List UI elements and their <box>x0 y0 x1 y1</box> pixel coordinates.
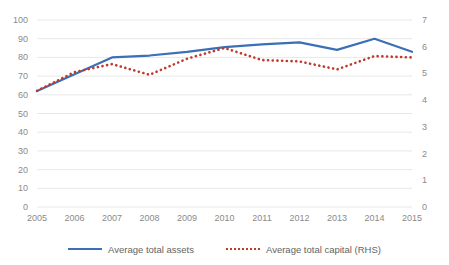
chart-container: 1009080706050403020100 76543210 20052006… <box>0 0 449 265</box>
series-line-average-total-capital <box>37 48 412 91</box>
plot-area: 1009080706050403020100 76543210 20052006… <box>0 0 449 232</box>
legend-label-average-total-capital: Average total capital (RHS) <box>266 244 381 255</box>
y-axis-right-tick-label: 2 <box>422 149 442 159</box>
x-axis-tick-label: 2005 <box>20 213 54 223</box>
x-axis-tick-label: 2009 <box>170 213 204 223</box>
series-line-average-total-assets <box>37 39 412 91</box>
y-axis-right-tick-label: 4 <box>422 95 442 105</box>
y-axis-left-tick-label: 60 <box>2 90 28 100</box>
y-axis-left-tick-label: 30 <box>2 146 28 156</box>
y-axis-right-tick-label: 1 <box>422 175 442 185</box>
x-axis-tick-label: 2015 <box>395 213 429 223</box>
x-axis-tick-label: 2014 <box>358 213 392 223</box>
y-axis-right-tick-label: 6 <box>422 42 442 52</box>
y-axis-right-tick-label: 0 <box>422 202 442 212</box>
legend-item-average-total-capital[interactable]: Average total capital (RHS) <box>226 244 381 255</box>
y-axis-left-tick-label: 80 <box>2 52 28 62</box>
x-axis-tick-label: 2007 <box>95 213 129 223</box>
x-axis-tick-label: 2012 <box>283 213 317 223</box>
y-axis-left-tick-label: 40 <box>2 127 28 137</box>
chart-canvas <box>0 0 449 232</box>
y-axis-right-tick-label: 7 <box>422 15 442 25</box>
legend-swatch-dotted-line-icon <box>226 248 260 250</box>
y-axis-left-tick-label: 20 <box>2 165 28 175</box>
x-axis-tick-label: 2013 <box>320 213 354 223</box>
legend-item-average-total-assets[interactable]: Average total assets <box>68 244 194 255</box>
chart-legend: Average total assets Average total capit… <box>0 236 449 262</box>
x-axis-tick-label: 2006 <box>58 213 92 223</box>
y-axis-left-tick-label: 0 <box>2 202 28 212</box>
y-axis-right-tick-label: 5 <box>422 68 442 78</box>
y-axis-left-tick-label: 70 <box>2 71 28 81</box>
x-axis-tick-label: 2008 <box>133 213 167 223</box>
y-axis-left-tick-label: 90 <box>2 34 28 44</box>
y-axis-right-tick-label: 3 <box>422 122 442 132</box>
x-axis-tick-label: 2010 <box>208 213 242 223</box>
y-axis-left-tick-label: 10 <box>2 183 28 193</box>
legend-swatch-solid-line-icon <box>68 248 102 250</box>
x-axis-tick-label: 2011 <box>245 213 279 223</box>
legend-label-average-total-assets: Average total assets <box>108 244 194 255</box>
y-axis-left-tick-label: 100 <box>2 15 28 25</box>
y-axis-left-tick-label: 50 <box>2 109 28 119</box>
